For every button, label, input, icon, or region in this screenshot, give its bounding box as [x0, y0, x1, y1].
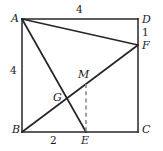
vertex-label-C: C [142, 124, 150, 135]
geometry-figure: A D F B C E G M 4 4 1 2 [0, 0, 163, 151]
measure-label-DF: 1 [142, 27, 149, 38]
vertex-label-E: E [81, 135, 89, 146]
measure-label-AD: 4 [76, 4, 83, 15]
segment-AF [22, 19, 138, 45]
vertex-label-D: D [142, 14, 151, 25]
segment-BF [22, 45, 138, 132]
measure-label-AB: 4 [10, 65, 17, 76]
measure-label-BE: 2 [50, 135, 57, 146]
vertex-label-G: G [53, 92, 62, 103]
vertex-label-B: B [12, 124, 20, 135]
segment-AE [22, 19, 86, 132]
vertex-label-M: M [78, 69, 89, 80]
vertex-label-A: A [11, 13, 19, 24]
vertex-label-F: F [142, 40, 150, 51]
